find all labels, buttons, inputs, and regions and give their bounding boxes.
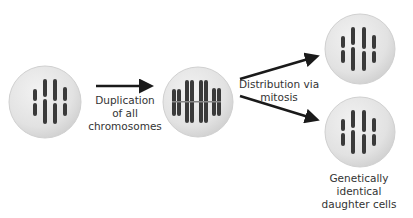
distribution-label: Distribution via mitosis: [239, 78, 319, 104]
duplication-label: Duplication of all chromosomes: [88, 94, 162, 133]
label-line: daughter cells: [322, 198, 397, 211]
label-line: chromosomes: [88, 120, 162, 133]
label-line: mitosis: [239, 91, 319, 104]
label-line: Genetically: [322, 172, 397, 185]
daughter-cell-top: [325, 14, 395, 84]
label-line: identical: [322, 185, 397, 198]
parent-cell: [9, 66, 81, 138]
label-line: of all: [88, 107, 162, 120]
duplicated-cell: [163, 67, 233, 137]
label-line: Distribution via: [239, 78, 319, 91]
label-line: Duplication: [88, 94, 162, 107]
distribution-arrow-top: [240, 57, 315, 79]
daughter-cell-bottom: [325, 97, 395, 167]
daughter-cells-label: Genetically identical daughter cells: [322, 172, 397, 211]
